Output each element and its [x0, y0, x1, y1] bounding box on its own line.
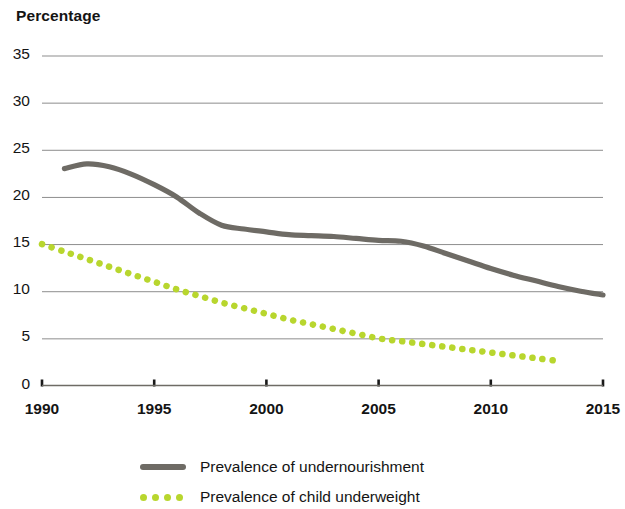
legend-label-child-underweight: Prevalence of child underweight	[200, 488, 420, 506]
chart-legend: Prevalence of undernourishment Prevalenc…	[140, 452, 610, 509]
x-axis-tick-label: 2005	[349, 400, 409, 418]
legend-item-child-underweight: Prevalence of child underweight	[140, 482, 610, 509]
x-axis-tick-label: 1990	[12, 400, 72, 418]
series-line-0	[64, 164, 603, 295]
y-axis-tick-label: 30	[0, 92, 30, 110]
y-axis-tick-label: 5	[0, 327, 30, 345]
gridlines-group	[42, 56, 603, 339]
legend-dot	[164, 494, 171, 501]
legend-dot	[152, 494, 159, 501]
legend-label-undernourishment: Prevalence of undernourishment	[200, 458, 424, 476]
y-axis-tick-label: 15	[0, 233, 30, 251]
y-axis-tick-label: 0	[0, 375, 30, 393]
x-axis-tick-label: 2015	[573, 400, 625, 418]
series-line-1	[42, 244, 558, 361]
x-axis-tick-label: 2000	[236, 400, 296, 418]
data-series-group	[42, 164, 603, 361]
x-axis-tick-label: 1995	[124, 400, 184, 418]
y-axis-tick-label: 10	[0, 280, 30, 298]
x-axis-tick-label: 2010	[461, 400, 521, 418]
y-axis-tick-label: 25	[0, 139, 30, 157]
legend-dot	[176, 494, 183, 501]
legend-swatch-solid-icon	[140, 460, 186, 474]
legend-swatch-dotted-icon	[140, 490, 186, 504]
legend-dot	[140, 494, 147, 501]
y-axis-tick-label: 35	[0, 45, 30, 63]
legend-item-undernourishment: Prevalence of undernourishment	[140, 452, 610, 482]
y-axis-tick-label: 20	[0, 186, 30, 204]
